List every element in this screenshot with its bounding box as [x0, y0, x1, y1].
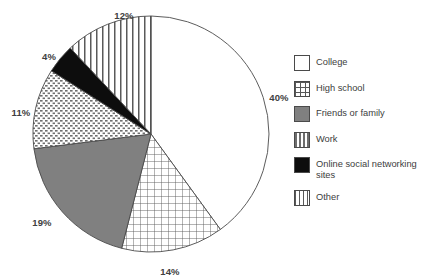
- legend-item-work[interactable]: Work: [294, 132, 432, 149]
- legend-label-friends-or-family: Friends or family: [316, 106, 385, 119]
- pie-percent-label-high-school: 14%: [160, 266, 180, 277]
- legend-label-high-school: High school: [316, 81, 365, 94]
- chart-legend: CollegeHigh schoolFriends or familyWorkO…: [294, 55, 432, 215]
- legend-swatch-grid-icon: [294, 81, 310, 97]
- legend-item-friends-or-family[interactable]: Friends or family: [294, 106, 432, 123]
- legend-swatch-dots-icon: [294, 132, 310, 148]
- legend-item-online-social-networking-sites[interactable]: Online social networking sites: [294, 157, 432, 181]
- pie-percent-label-work: 11%: [12, 107, 31, 118]
- pie-chart-figure: 40%14%19%11%4%12% CollegeHigh schoolFrie…: [0, 0, 432, 278]
- pie-percent-label-friends-or-family: 19%: [32, 217, 52, 228]
- legend-label-other: Other: [316, 190, 339, 203]
- legend-swatch-solid-black-icon: [294, 157, 310, 173]
- legend-swatch-solid-gray-icon: [294, 106, 310, 122]
- legend-item-high-school[interactable]: High school: [294, 81, 432, 98]
- pie-percent-label-online-social-networking-sites: 4%: [42, 51, 56, 62]
- legend-label-work: Work: [316, 132, 338, 145]
- legend-item-college[interactable]: College: [294, 55, 432, 72]
- pie-percent-label-other: 12%: [114, 10, 134, 21]
- pie-percent-label-college: 40%: [269, 92, 289, 103]
- legend-label-online-social-networking-sites: Online social networking sites: [316, 157, 417, 181]
- legend-item-other[interactable]: Other: [294, 190, 432, 207]
- pie-slices-group: [33, 16, 269, 252]
- legend-swatch-solid-white-icon: [294, 55, 310, 71]
- legend-swatch-vertical-stripes-icon: [294, 190, 310, 206]
- legend-label-college: College: [316, 55, 348, 68]
